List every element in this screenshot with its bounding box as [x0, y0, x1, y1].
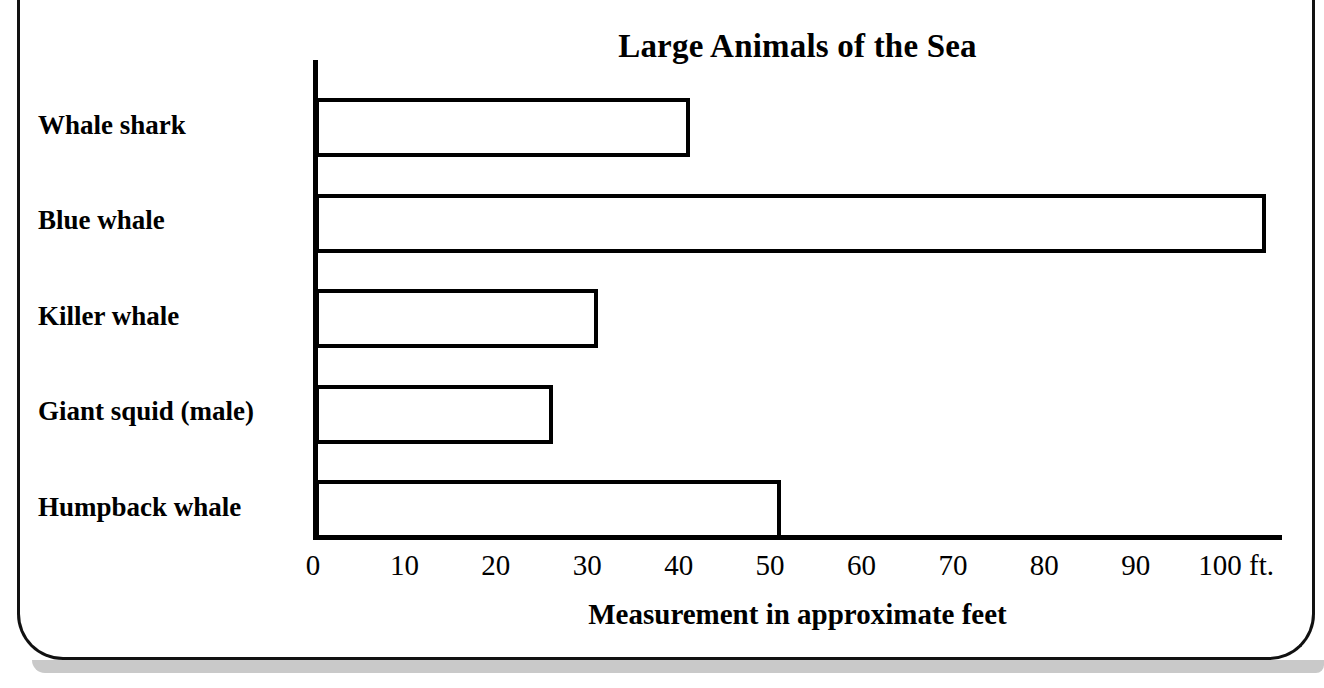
category-label: Blue whale: [0, 205, 292, 236]
bar: [315, 480, 781, 539]
x-tick-label: 100 ft.: [1198, 549, 1274, 582]
x-tick-label: 10: [390, 549, 419, 582]
x-tick-label: 70: [938, 549, 967, 582]
x-tick-label: 60: [847, 549, 876, 582]
bar: [315, 289, 598, 348]
bar: [315, 98, 690, 157]
plot-area: [313, 60, 1282, 540]
x-tick-label: 40: [664, 549, 693, 582]
x-axis-title: Measurement in approximate feet: [313, 598, 1282, 631]
x-tick-label: 90: [1121, 549, 1150, 582]
x-tick-label: 80: [1030, 549, 1059, 582]
x-axis-tick-labels: 0102030405060708090100 ft.: [313, 549, 1313, 589]
category-label: Killer whale: [0, 301, 292, 332]
x-tick-label: 50: [756, 549, 785, 582]
category-label: Whale shark: [0, 110, 292, 141]
category-label: Giant squid (male): [0, 396, 292, 427]
bar: [315, 385, 553, 444]
x-tick-label: 0: [306, 549, 321, 582]
bar: [315, 194, 1266, 253]
category-label: Humpback whale: [0, 492, 292, 523]
x-tick-label: 30: [573, 549, 602, 582]
x-tick-label: 20: [481, 549, 510, 582]
